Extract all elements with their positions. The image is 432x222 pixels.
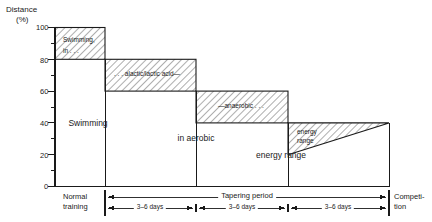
footer-span-2: 3–6 days: [226, 203, 258, 210]
callout-energy-range: energy range: [256, 151, 306, 161]
footer-tapering-period: Tapering period: [218, 192, 276, 200]
band-label-alactic-lactic: . . . alactic/lactic acid—: [114, 70, 180, 77]
callout-swimming: Swimming: [68, 119, 107, 129]
footer-competition-line1: Competi-: [394, 193, 424, 201]
callout-in-aerobic: in aerobic: [178, 134, 215, 144]
footer-span-3: 3–6 days: [322, 203, 354, 210]
band-swimming: [55, 28, 105, 60]
chart-plot-area: [0, 0, 432, 222]
band-label-swimming-line2: in . . .: [63, 47, 79, 54]
band-label-energy-line1: energy: [297, 128, 317, 135]
band-label-energy-line2: range: [297, 137, 314, 144]
footer-normal-training-line2: training: [63, 203, 88, 211]
band-label-anaerobic: —anaerobic . . .: [218, 102, 264, 109]
footer-span-1: 3–6 days: [134, 203, 166, 210]
footer-competition-line2: tion: [394, 203, 406, 211]
y-axis: [48, 28, 55, 187]
chart-figure: Distance (%) 100 80 60 40 20 0: [0, 0, 432, 222]
footer-normal-training-line1: Normal: [63, 193, 87, 201]
band-label-swimming-line1: Swimming,: [63, 36, 95, 43]
